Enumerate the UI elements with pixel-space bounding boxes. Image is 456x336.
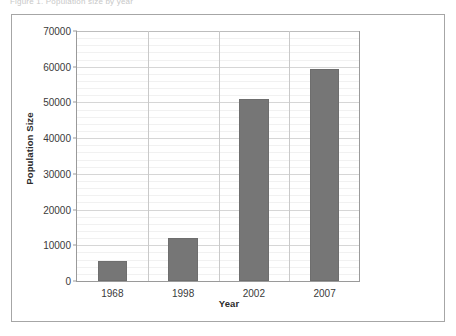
bar (310, 69, 340, 281)
y-tick-label: 70000 (43, 26, 71, 37)
y-tick-label: 60000 (43, 61, 71, 72)
x-axis-title: Year (12, 298, 446, 309)
clipped-caption-text: Figure 1. Population size by year (10, 0, 133, 6)
y-tick-label: 0 (65, 276, 71, 287)
clipped-caption-sliver: Figure 1. Population size by year (0, 0, 456, 7)
y-tick-label: 20000 (43, 204, 71, 215)
bars-layer: 1968199820022007 (77, 31, 360, 281)
y-axis-title: Population Size (24, 69, 35, 229)
plot-area: 010000200003000040000500006000070000 196… (76, 31, 360, 282)
bar (168, 238, 198, 281)
y-tick-label: 40000 (43, 133, 71, 144)
chart-frame: Population Size 010000200003000040000500… (11, 14, 445, 322)
y-tick-label: 10000 (43, 240, 71, 251)
y-tick-label: 50000 (43, 97, 71, 108)
bar (239, 99, 269, 281)
y-tick-label: 30000 (43, 168, 71, 179)
bar (98, 261, 128, 281)
